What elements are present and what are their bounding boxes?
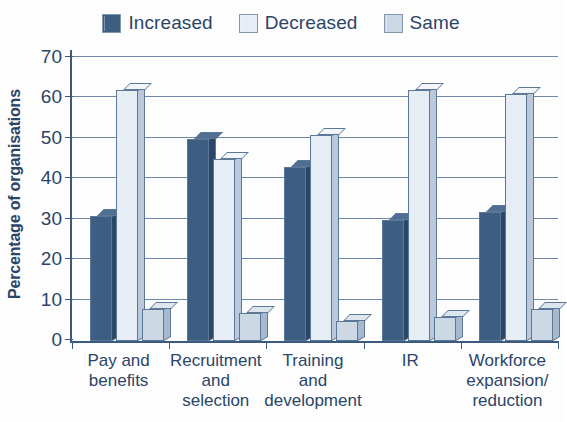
bar xyxy=(90,216,112,341)
bar-group xyxy=(461,50,558,341)
bar-group xyxy=(364,50,461,341)
x-axis-tick-labels: Pay andbenefitsRecruitmentandselectionTr… xyxy=(70,351,558,421)
y-tick-label: 30 xyxy=(41,208,62,227)
y-tick-label: 70 xyxy=(41,47,62,66)
legend-item: Decreased xyxy=(239,12,358,34)
x-tick-mark xyxy=(169,341,170,349)
legend-label: Decreased xyxy=(265,12,358,34)
y-tick-label: 0 xyxy=(51,330,62,349)
plot-area-wrapper: 706050403020100 xyxy=(30,50,558,350)
bar xyxy=(434,317,456,341)
y-tick-label: 20 xyxy=(41,249,62,268)
y-axis-title: Percentage of organisations xyxy=(2,44,28,344)
bar xyxy=(239,313,261,341)
legend-label: Increased xyxy=(128,12,212,34)
x-axis-category-label-line: expansion/ xyxy=(449,371,566,391)
bar xyxy=(284,167,306,341)
bar xyxy=(116,90,138,341)
y-tick-label: 40 xyxy=(41,168,62,187)
x-tick-mark xyxy=(461,341,462,349)
bar xyxy=(336,321,358,341)
legend-label: Same xyxy=(410,12,460,34)
x-tick-mark xyxy=(364,341,365,349)
legend-swatch-icon xyxy=(239,14,258,33)
y-tick-label: 50 xyxy=(41,127,62,146)
y-axis-title-text: Percentage of organisations xyxy=(6,89,24,299)
legend-item: Increased xyxy=(102,12,212,34)
legend-swatch-icon xyxy=(102,14,121,33)
bar-group xyxy=(169,50,266,341)
y-tick-label: 60 xyxy=(41,87,62,106)
x-axis-category-label-line: reduction xyxy=(449,391,566,411)
bar xyxy=(187,139,209,341)
bar xyxy=(382,220,404,341)
legend-swatch-icon xyxy=(384,14,403,33)
x-tick-mark xyxy=(558,341,559,349)
x-tick-mark xyxy=(266,341,267,349)
bar-group xyxy=(266,50,363,341)
plot-area xyxy=(70,50,558,343)
legend-item: Same xyxy=(384,12,460,34)
x-axis-category-label-line: Workforce xyxy=(449,351,566,371)
bar xyxy=(505,94,527,341)
y-tick-label: 10 xyxy=(41,289,62,308)
bar xyxy=(531,309,553,341)
chart-legend: IncreasedDecreasedSame xyxy=(0,2,562,44)
x-tick-mark xyxy=(72,341,73,349)
bar xyxy=(479,212,501,341)
x-axis-category-label-line: development xyxy=(254,391,371,411)
y-axis-tick-labels: 706050403020100 xyxy=(30,50,66,350)
bar xyxy=(213,159,235,341)
bar xyxy=(142,309,164,341)
x-axis-category-label: Workforceexpansion/reduction xyxy=(449,351,566,411)
bar xyxy=(310,135,332,341)
bar xyxy=(408,90,430,341)
bar-group xyxy=(72,50,169,341)
x-axis-category-label-line: and xyxy=(254,371,371,391)
